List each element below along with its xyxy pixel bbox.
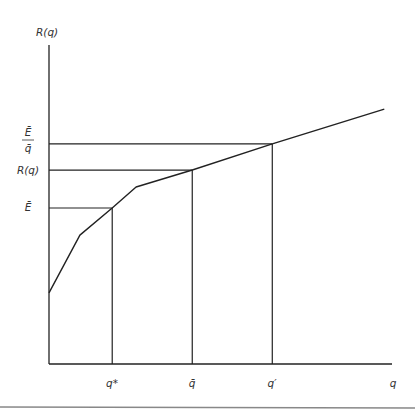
bottom-separator [0, 407, 415, 408]
x-axis-label: q [390, 377, 397, 389]
reference-lines [49, 144, 272, 364]
series-line-r-of-q [49, 109, 384, 293]
chart: R(q) Ē q̄ R(q) Ē q* q̄ q′ q [0, 0, 415, 418]
x-tick-label-q-bar: q̄ [189, 377, 196, 389]
y-axis-label: R(q) [36, 26, 58, 38]
x-tick-label-q-star: q* [106, 377, 118, 389]
y-tick-label-r-of-q: R(q) [17, 164, 39, 176]
y-tick-label-e-bar: Ē [25, 201, 32, 213]
x-tick-label-q-prime: q′ [267, 377, 277, 389]
y-tick-label-e-bar-over-q-bar-numerator: Ē [25, 126, 32, 138]
y-tick-label-e-bar-over-q-bar-denominator: q̄ [25, 142, 32, 154]
